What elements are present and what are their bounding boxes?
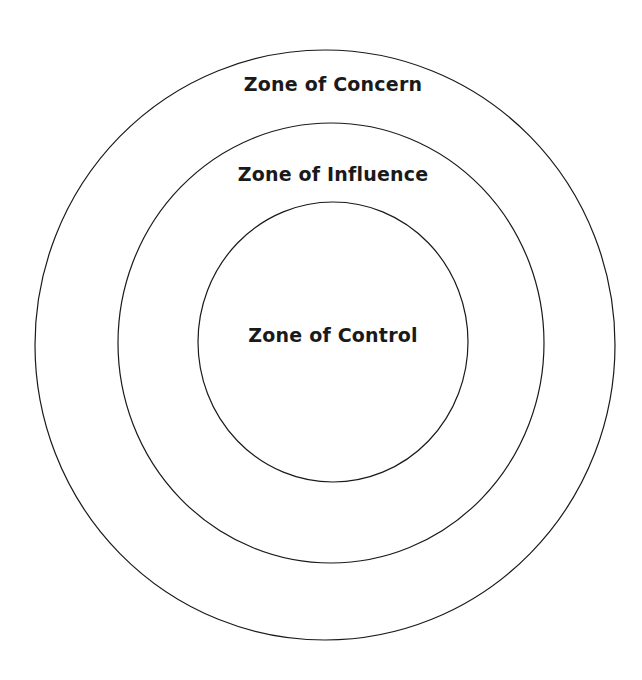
zone-of-control-label: Zone of Control (0, 324, 642, 346)
zone-of-influence-label: Zone of Influence (0, 163, 642, 185)
zone-of-concern-label: Zone of Concern (0, 73, 642, 95)
